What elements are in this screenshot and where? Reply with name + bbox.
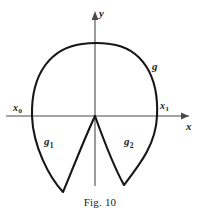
- y-axis-label: y: [99, 8, 104, 19]
- y-axis-arrow-icon: [92, 11, 99, 20]
- figure-container: y x x0 x1 g g1 g2 Fig. 10: [0, 0, 200, 216]
- point-label-x0-subscript: 0: [18, 107, 22, 115]
- point-label-x1: x1: [160, 101, 169, 111]
- curve-label-g2-base: g: [124, 135, 130, 147]
- curve-label-g2-subscript: 2: [130, 141, 134, 150]
- figure-caption: Fig. 10: [0, 196, 200, 208]
- curve-g2-lower-right-lobe: [95, 116, 157, 185]
- curve-label-g1-base: g: [44, 135, 50, 147]
- curve-label-g: g: [152, 61, 158, 72]
- point-label-x1-subscript: 1: [165, 105, 169, 113]
- x-axis-arrow-icon: [181, 113, 189, 120]
- x-axis-label: x: [186, 121, 192, 132]
- figure-drawing-canvas: [0, 0, 200, 216]
- curve-label-g1: g1: [44, 136, 53, 147]
- curve-label-g2: g2: [124, 136, 133, 147]
- point-label-x0: x0: [13, 103, 22, 113]
- curve-label-g1-subscript: 1: [50, 141, 54, 150]
- curve-g1-lower-left-lobe: [32, 116, 95, 192]
